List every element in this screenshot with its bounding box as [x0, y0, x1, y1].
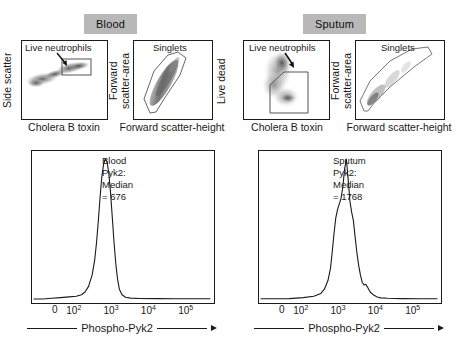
axis-rule-left	[254, 328, 304, 329]
xtick-label: 104	[368, 304, 383, 316]
histogram-xticks-sputum: 0102103104105	[258, 304, 440, 318]
xtick-label: 0	[279, 304, 285, 315]
group-title-blood: Blood	[84, 14, 137, 34]
right-arrow-icon	[211, 325, 217, 331]
histogram-xaxis-blood: Phospho-Pyk2	[27, 322, 217, 334]
histogram-annotation-sputum: Sputum Pyk2: Median = 1768	[333, 155, 366, 203]
group-title-sputum: Sputum	[303, 14, 366, 34]
axis-rule-right	[384, 328, 434, 329]
axis-label-x-cholera-b-toxin-sputum: Cholera B toxin	[232, 121, 342, 133]
xtick-label: 104	[141, 304, 156, 316]
axis-label-y-live-dead: Live dead	[216, 48, 228, 114]
axis-label-x-forward-scatter-height-sputum: Forward scatter-height	[340, 121, 458, 133]
xtick-label: 103	[104, 304, 119, 316]
xtick-label: 102	[66, 304, 81, 316]
right-arrow-icon	[438, 325, 444, 331]
flow-cytometry-figure: Blood Sputum Side scatter	[0, 0, 462, 351]
xtick-label: 105	[178, 304, 193, 316]
axis-label-y-forward-scatter-area-blood: Forward scatter-area	[108, 44, 131, 118]
gate-label-singlets-blood: Singlets	[153, 42, 187, 53]
axis-label-y-forward-scatter-area-sputum: Forward scatter-area	[330, 44, 353, 118]
xtick-label: 103	[331, 304, 346, 316]
axis-label-y-side-scatter: Side scatter	[2, 44, 14, 116]
histogram-xaxis-label-sputum: Phospho-Pyk2	[308, 322, 380, 334]
xtick-label: 0	[52, 304, 58, 315]
gate-label-singlets-sputum: Singlets	[381, 42, 415, 53]
histogram-xaxis-label-blood: Phospho-Pyk2	[81, 322, 153, 334]
gate-pointer-arrow-icon	[55, 52, 71, 68]
gate-pointer-arrow-icon	[282, 52, 298, 70]
axis-label-x-cholera-b-toxin-blood: Cholera B toxin	[9, 121, 119, 133]
axis-rule-right	[157, 328, 207, 329]
xtick-label: 102	[293, 304, 308, 316]
xtick-label: 105	[405, 304, 420, 316]
axis-rule-left	[27, 328, 77, 329]
axis-label-x-forward-scatter-height-blood: Forward scatter-height	[116, 121, 228, 133]
histogram-xticks-blood: 0102103104105	[31, 304, 213, 318]
histogram-annotation-blood: Blood Pyk2: Median = 676	[102, 155, 133, 203]
histogram-xaxis-sputum: Phospho-Pyk2	[254, 322, 444, 334]
